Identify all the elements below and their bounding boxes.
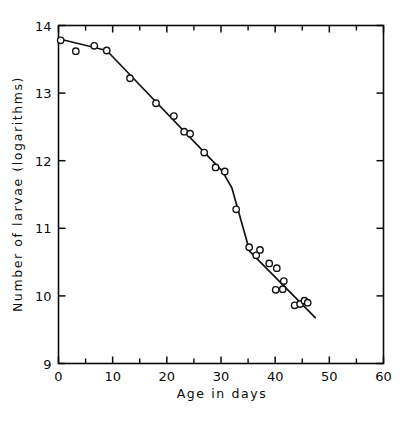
y-tick-label: 11 — [35, 221, 52, 236]
data-point-marker — [304, 299, 310, 305]
fitted-trend-line — [60, 39, 316, 318]
y-tick-label: 14 — [35, 19, 52, 34]
data-point-marker — [233, 206, 239, 212]
data-point-marker — [127, 75, 133, 81]
x-tick-label: 20 — [159, 369, 176, 384]
y-axis-title: Number of larvae (logarithms) — [10, 76, 25, 312]
data-point-marker — [57, 37, 63, 43]
data-point-marker — [73, 48, 79, 54]
data-point-marker — [212, 164, 218, 170]
y-tick-label: 9 — [43, 357, 51, 372]
axis-minor-ticks — [86, 26, 357, 364]
x-axis-tick-labels: 0102030405060 — [54, 369, 391, 384]
y-axis-tick-labels: 91011121314 — [35, 19, 52, 372]
x-tick-label: 50 — [321, 369, 338, 384]
data-point-marker — [104, 47, 110, 53]
data-point-marker — [266, 260, 272, 266]
data-point-marker — [187, 130, 193, 136]
y-tick-label: 12 — [35, 154, 52, 169]
data-point-marker — [246, 244, 252, 250]
x-tick-label: 60 — [375, 369, 392, 384]
data-point-marker — [91, 43, 97, 49]
plot-frame — [59, 26, 384, 364]
x-axis-title: Age in days — [177, 386, 268, 401]
data-point-marker — [280, 286, 286, 292]
x-tick-label: 0 — [54, 369, 62, 384]
data-point-marker — [281, 278, 287, 284]
data-point-marker — [222, 168, 228, 174]
y-tick-label: 13 — [35, 86, 52, 101]
data-point-marker — [201, 149, 207, 155]
data-point-marker — [153, 100, 159, 106]
x-tick-label: 40 — [267, 369, 284, 384]
y-tick-label: 10 — [35, 289, 52, 304]
chart-figure: 0102030405060 91011121314 Age in days Nu… — [0, 0, 408, 427]
data-point-marker — [257, 247, 263, 253]
x-tick-label: 30 — [213, 369, 230, 384]
axis-major-ticks — [59, 26, 384, 364]
data-point-marker — [273, 287, 279, 293]
data-point-markers — [57, 37, 310, 308]
data-point-marker — [171, 113, 177, 119]
larvae-decline-scatter-chart: 0102030405060 91011121314 Age in days Nu… — [0, 0, 408, 427]
x-tick-label: 10 — [104, 369, 121, 384]
data-point-marker — [274, 265, 280, 271]
